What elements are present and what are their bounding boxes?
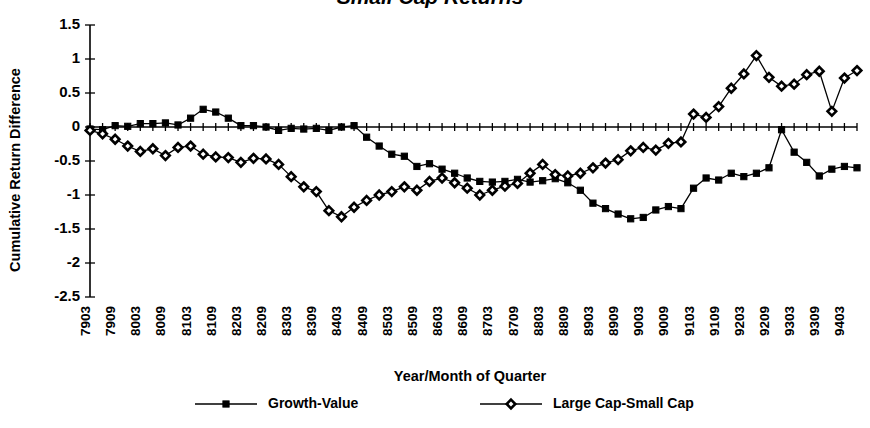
- y-axis-title: Cumulative Return Difference: [7, 68, 23, 272]
- data-point-marker: [225, 115, 231, 121]
- x-axis-tick-label: 8409: [355, 306, 370, 336]
- data-point-marker: [213, 109, 219, 115]
- data-point-marker: [615, 211, 621, 217]
- data-point-marker: [526, 169, 535, 178]
- x-axis-tick-label: 9203: [732, 306, 747, 337]
- data-point-marker: [840, 74, 849, 83]
- data-point-marker: [313, 125, 319, 131]
- data-point-marker: [815, 67, 824, 76]
- x-axis-tick-label: 9109: [707, 306, 722, 336]
- data-point-marker: [778, 127, 784, 133]
- data-point-marker: [452, 170, 458, 176]
- data-point-marker: [590, 200, 596, 206]
- data-point-marker: [238, 123, 244, 129]
- data-point-marker: [338, 124, 344, 130]
- data-point-marker: [337, 212, 346, 221]
- data-point-marker: [161, 151, 170, 160]
- x-axis-tick-label: 9209: [757, 306, 772, 336]
- data-point-marker: [174, 143, 183, 152]
- data-point-marker: [98, 130, 107, 139]
- data-point-marker: [350, 203, 359, 212]
- x-axis-tick-label: 8209: [254, 306, 269, 336]
- data-point-marker: [802, 70, 811, 79]
- data-point-marker: [211, 153, 220, 162]
- data-point-marker: [589, 164, 598, 173]
- data-point-marker: [752, 51, 761, 60]
- data-point-marker: [678, 206, 684, 212]
- x-axis-tick-label: 8109: [204, 306, 219, 336]
- data-point-marker: [488, 186, 497, 195]
- data-point-marker: [364, 134, 370, 140]
- data-point-marker: [540, 178, 546, 184]
- data-point-marker: [854, 165, 860, 171]
- data-point-marker: [414, 163, 420, 169]
- data-point-marker: [389, 151, 395, 157]
- data-point-marker: [828, 107, 837, 116]
- data-point-marker: [276, 127, 282, 133]
- data-point-marker: [564, 172, 573, 181]
- data-point-marker: [376, 143, 382, 149]
- y-axis-tick-label: -2.5: [54, 287, 80, 304]
- y-axis-tick-label: -2: [67, 253, 80, 270]
- legend-item-2: Large Cap-Small Cap: [480, 395, 694, 411]
- data-point-marker: [703, 175, 709, 181]
- data-point-marker: [463, 184, 472, 193]
- data-point-marker: [325, 206, 334, 215]
- data-point-marker: [664, 139, 673, 148]
- x-axis-tick-label: 8203: [229, 306, 244, 337]
- x-axis-tick-label: 9003: [631, 306, 646, 337]
- data-point-marker: [162, 120, 168, 126]
- data-point-marker: [187, 115, 193, 121]
- data-point-marker: [551, 170, 560, 179]
- data-point-marker: [299, 183, 308, 192]
- legend-label: Growth-Value: [268, 395, 358, 411]
- data-point-marker: [439, 166, 445, 172]
- data-point-marker: [401, 153, 407, 159]
- data-point-marker: [137, 121, 143, 127]
- data-point-marker: [450, 178, 459, 187]
- x-axis-tick-label: 9309: [807, 306, 822, 336]
- data-point-marker: [301, 126, 307, 132]
- data-point-marker: [112, 123, 118, 129]
- x-axis-tick-label: 8609: [455, 306, 470, 336]
- data-point-marker: [740, 70, 749, 79]
- data-point-marker: [387, 187, 396, 196]
- data-point-marker: [149, 144, 158, 153]
- data-point-marker: [262, 155, 271, 164]
- data-point-marker: [527, 179, 533, 185]
- data-point-marker: [475, 191, 484, 200]
- series-2: [86, 51, 862, 221]
- data-point-marker: [652, 146, 661, 155]
- legend-marker: [223, 401, 229, 407]
- data-point-marker: [425, 177, 434, 186]
- data-point-marker: [125, 123, 131, 129]
- data-point-marker: [136, 147, 145, 156]
- x-axis-tick-label: 8703: [480, 306, 495, 337]
- data-point-marker: [689, 110, 698, 119]
- data-point-marker: [714, 102, 723, 111]
- data-point-marker: [237, 158, 246, 167]
- data-point-marker: [351, 123, 357, 129]
- y-axis-tick-label: 0.5: [59, 83, 80, 100]
- data-point-marker: [400, 183, 409, 192]
- data-point-marker: [477, 178, 483, 184]
- x-axis-tick-label: 9403: [832, 306, 847, 337]
- chart-container: Small Cap Returns 1.510.50-0.5-1-1.5-2-2…: [0, 0, 870, 428]
- x-axis-tick-label: 8103: [179, 306, 194, 337]
- data-point-marker: [602, 206, 608, 212]
- data-point-marker: [186, 142, 195, 151]
- data-point-marker: [263, 124, 269, 130]
- data-series-group: [86, 51, 862, 222]
- data-point-marker: [728, 170, 734, 176]
- chart-legend: Growth-ValueLarge Cap-Small Cap: [195, 395, 694, 411]
- data-point-marker: [538, 160, 547, 169]
- series-line: [90, 109, 857, 218]
- chart-title: Small Cap Returns: [337, 0, 524, 8]
- data-point-marker: [577, 187, 583, 193]
- data-point-marker: [640, 214, 646, 220]
- legend-item-1: Growth-Value: [195, 395, 358, 411]
- series-line: [90, 56, 857, 217]
- data-point-marker: [287, 172, 296, 181]
- data-point-marker: [326, 127, 332, 133]
- data-point-marker: [199, 150, 208, 159]
